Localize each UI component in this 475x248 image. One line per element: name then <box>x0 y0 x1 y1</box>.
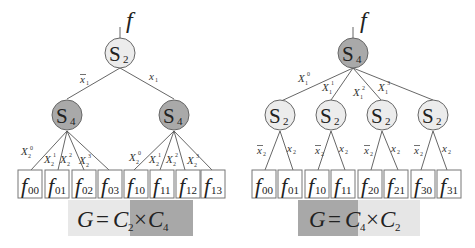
left-child1-edge-label-0: X 2 0 <box>128 150 141 165</box>
svg-text:2: 2 <box>263 151 266 157</box>
svg-text:02: 02 <box>82 184 93 196</box>
right-leaf-f20: f 20 <box>358 170 382 198</box>
left-child0-edge-label-0: X 2 0 <box>20 145 33 159</box>
right-child1-edge-labels: x 2 x 2 <box>314 142 348 157</box>
left-child-node-s4-0: S 4 <box>52 100 82 130</box>
svg-text:2: 2 <box>156 161 159 167</box>
svg-text:1: 1 <box>158 152 161 158</box>
right-root-edge-label-2: X 1 2 <box>352 85 365 100</box>
svg-text:S: S <box>422 104 434 128</box>
svg-text:x: x <box>148 70 154 82</box>
svg-text:2: 2 <box>283 115 289 127</box>
right-equation: G = C 4 × C 2 <box>298 200 420 236</box>
left-child0-edge-label-2: X 2 2 <box>59 152 72 167</box>
right-leaf-f21: f 21 <box>384 170 408 198</box>
svg-text:3: 3 <box>387 80 390 86</box>
right-leaf-f01: f 01 <box>278 170 302 198</box>
svg-text:13: 13 <box>211 184 223 196</box>
svg-text:0: 0 <box>30 145 33 151</box>
left-edge-x1 <box>120 68 174 99</box>
svg-text:C: C <box>113 207 129 232</box>
left-leaf-f02: f 02 <box>72 170 96 198</box>
svg-text:1: 1 <box>53 152 56 158</box>
right-child-node-s2-1: S 2 <box>316 100 346 130</box>
svg-text:4: 4 <box>356 53 362 65</box>
svg-text:0: 0 <box>307 71 310 77</box>
svg-text:21: 21 <box>394 184 405 196</box>
svg-text:x: x <box>338 142 344 154</box>
right-leaf-f11: f 11 <box>331 170 355 198</box>
right-leaves: f 00 f 01 f 10 f 11 f 20 <box>252 170 461 198</box>
left-leaf-f03: f 03 <box>98 170 122 198</box>
svg-text:01: 01 <box>288 184 299 196</box>
svg-text:1: 1 <box>331 80 334 86</box>
right-tree: f X 1 0 X 1 1 X 1 2 X 1 3 <box>252 7 461 236</box>
right-child-node-s2-0: S 2 <box>265 100 295 130</box>
left-edge-label-x1: x 1 <box>148 70 158 83</box>
svg-text:2: 2 <box>173 161 176 167</box>
svg-text:2: 2 <box>128 221 134 233</box>
left-leaf-f10: f 10 <box>124 170 148 198</box>
svg-text:1: 1 <box>385 89 388 95</box>
left-child0-edges <box>31 131 109 170</box>
svg-text:2: 2 <box>136 159 139 165</box>
svg-text:x: x <box>441 142 447 154</box>
left-leaves: f 00 f 01 f 02 f 03 f 10 <box>18 170 225 198</box>
right-child0-edge-labels: x 2 x 2 <box>256 142 296 157</box>
svg-text:2: 2 <box>436 115 442 127</box>
svg-text:31: 31 <box>447 184 458 196</box>
right-root-edge-label-0: X 1 0 <box>297 71 310 86</box>
svg-text:G: G <box>309 207 326 232</box>
right-leaf-f30: f 30 <box>411 170 435 198</box>
svg-text:2: 2 <box>69 152 72 158</box>
left-root-node-s2: S 2 <box>105 38 135 68</box>
right-child-node-s2-2: S 2 <box>367 100 397 130</box>
left-child0-edge-label-1: X 2 1 <box>43 152 56 167</box>
svg-text:10: 10 <box>134 184 146 196</box>
svg-text:2: 2 <box>385 115 391 127</box>
left-leaf-f01: f 01 <box>45 170 69 198</box>
right-leaf-f31: f 31 <box>437 170 461 198</box>
svg-text:1: 1 <box>86 80 89 86</box>
svg-text:2: 2 <box>86 162 89 168</box>
right-root-edge-label-3: X 1 3 <box>377 80 390 95</box>
svg-text:x: x <box>286 142 292 154</box>
left-leaf-f12: f 12 <box>176 170 200 198</box>
svg-text:01: 01 <box>55 184 66 196</box>
svg-text:S: S <box>109 42 121 66</box>
left-child1-edge-label-1: X 2 1 <box>148 152 161 167</box>
svg-text:2: 2 <box>334 115 340 127</box>
svg-text:2: 2 <box>397 149 400 155</box>
left-leaf-f00: f 00 <box>18 170 42 198</box>
svg-text:12: 12 <box>186 184 197 196</box>
svg-text:C: C <box>380 207 396 232</box>
svg-text:03: 03 <box>108 184 120 196</box>
svg-text:1: 1 <box>360 94 363 100</box>
svg-text:G: G <box>77 207 94 232</box>
svg-text:S: S <box>320 104 332 128</box>
svg-text:1: 1 <box>329 89 332 95</box>
left-child1-edge-label-3: X 2 3 <box>186 153 199 168</box>
left-leaf-f13: f 13 <box>201 170 225 198</box>
right-leaf-f00: f 00 <box>252 170 276 198</box>
svg-text:2: 2 <box>67 161 70 167</box>
right-output-f: f <box>360 7 370 33</box>
svg-text:2: 2 <box>321 151 324 157</box>
svg-text:2: 2 <box>420 151 423 157</box>
svg-text:2: 2 <box>362 85 365 91</box>
left-leaf-f11: f 11 <box>150 170 174 198</box>
svg-text:00: 00 <box>28 184 40 196</box>
left-child-node-s4-1: S 4 <box>159 100 189 130</box>
right-root-node-s4: S 4 <box>338 38 368 68</box>
svg-text:11: 11 <box>160 184 171 196</box>
svg-text:20: 20 <box>368 184 380 196</box>
svg-text:4: 4 <box>70 115 76 127</box>
right-root-edge-label-1: X 1 1 <box>321 80 334 95</box>
svg-text:3: 3 <box>196 153 199 159</box>
svg-text:1: 1 <box>305 80 308 86</box>
svg-text:=: = <box>328 207 341 232</box>
svg-text:S: S <box>163 104 175 128</box>
svg-text:2: 2 <box>448 149 451 155</box>
svg-text:11: 11 <box>341 184 352 196</box>
svg-text:S: S <box>269 104 281 128</box>
